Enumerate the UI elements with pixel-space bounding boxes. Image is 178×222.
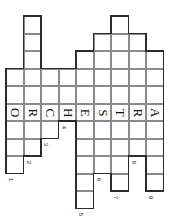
answer-letter: H — [59, 104, 77, 122]
grid-cell[interactable] — [6, 86, 24, 104]
grid-cell[interactable] — [24, 16, 42, 34]
grid-cell[interactable] — [129, 34, 147, 52]
grid-cell[interactable] — [6, 156, 24, 174]
clue-number: 4 — [60, 123, 69, 132]
grid-outline-right — [128, 15, 130, 34]
grid-cell[interactable] — [76, 86, 94, 104]
grid-outline-bottom — [128, 155, 147, 157]
grid-outline-left — [75, 155, 77, 174]
grid-outline-top — [58, 68, 77, 70]
grid-cell[interactable] — [146, 156, 164, 174]
grid-outline-right — [163, 50, 165, 69]
grid-outline-left — [5, 120, 7, 139]
grid-cell[interactable] — [6, 121, 24, 139]
grid-cell[interactable] — [59, 69, 77, 87]
grid-cell[interactable] — [111, 156, 129, 174]
grid-outline-top — [145, 50, 164, 52]
grid-cell[interactable] — [111, 34, 129, 52]
grid-cell[interactable] — [24, 121, 42, 139]
grid-cell[interactable] — [129, 69, 147, 87]
clue-number: 3 — [42, 140, 51, 149]
grid-outline-right — [163, 120, 165, 139]
grid-cell[interactable] — [111, 86, 129, 104]
clue-number: 1 — [7, 175, 16, 184]
grid-cell[interactable] — [76, 121, 94, 139]
grid-cell[interactable] — [146, 86, 164, 104]
grid-cell[interactable] — [111, 51, 129, 69]
grid-outline-left — [145, 155, 147, 174]
grid-cell[interactable] — [146, 174, 164, 192]
grid-outline-bottom — [23, 155, 42, 157]
clue-number: 5 — [77, 210, 86, 219]
grid-cell[interactable] — [94, 139, 112, 157]
grid-cell[interactable] — [24, 86, 42, 104]
grid-cell[interactable] — [129, 86, 147, 104]
grid-outline-left — [5, 138, 7, 157]
grid-cell[interactable] — [129, 51, 147, 69]
grid-outline-right — [163, 85, 165, 104]
grid-cell[interactable] — [146, 121, 164, 139]
crossword-puzzle: ORCHESTRA123456789 — [0, 0, 178, 222]
grid-cell[interactable] — [129, 139, 147, 157]
grid-cell[interactable] — [6, 139, 24, 157]
grid-cell[interactable] — [6, 69, 24, 87]
grid-cell[interactable] — [94, 34, 112, 52]
grid-cell[interactable] — [111, 16, 129, 34]
grid-cell[interactable] — [24, 139, 42, 157]
grid-cell[interactable] — [94, 156, 112, 174]
answer-letter: A — [146, 104, 164, 122]
grid-outline-left — [5, 68, 7, 87]
grid-cell[interactable] — [76, 139, 94, 157]
grid-cell[interactable] — [94, 121, 112, 139]
grid-outline-left — [75, 173, 77, 192]
grid-cell[interactable] — [76, 174, 94, 192]
answer-letter: C — [41, 104, 59, 122]
grid-cell[interactable] — [41, 69, 59, 87]
grid-outline-right — [163, 173, 165, 192]
grid-cell[interactable] — [59, 86, 77, 104]
grid-outline-top — [128, 33, 147, 35]
grid-outline-top — [5, 68, 24, 70]
grid-cell[interactable] — [146, 69, 164, 87]
grid-cell[interactable] — [111, 139, 129, 157]
grid-outline-left — [93, 33, 95, 52]
grid-cell[interactable] — [24, 51, 42, 69]
grid-outline-top — [75, 50, 94, 52]
answer-letter: R — [129, 104, 147, 122]
grid-cell[interactable] — [94, 69, 112, 87]
grid-cell[interactable] — [76, 69, 94, 87]
grid-cell[interactable] — [111, 174, 129, 192]
grid-outline-left — [75, 190, 77, 209]
grid-outline-right — [40, 50, 42, 69]
grid-outline-left — [110, 173, 112, 192]
grid-cell[interactable] — [129, 121, 147, 139]
grid-outline-right — [145, 33, 147, 52]
clue-number: 9 — [147, 193, 156, 202]
grid-outline-top — [40, 68, 59, 70]
grid-cell[interactable] — [24, 34, 42, 52]
clue-number: 7 — [112, 193, 121, 202]
grid-outline-right — [40, 33, 42, 52]
grid-cell[interactable] — [146, 51, 164, 69]
grid-cell[interactable] — [94, 51, 112, 69]
clue-number: 6 — [95, 175, 104, 184]
grid-cell[interactable] — [76, 156, 94, 174]
grid-cell[interactable] — [41, 86, 59, 104]
clue-number: 8 — [130, 158, 139, 167]
grid-outline-left — [75, 50, 77, 69]
grid-cell[interactable] — [76, 191, 94, 209]
answer-letter: O — [6, 104, 24, 122]
grid-cell[interactable] — [111, 121, 129, 139]
grid-cell[interactable] — [111, 69, 129, 87]
clue-number: 2 — [25, 158, 34, 167]
grid-cell[interactable] — [76, 51, 94, 69]
grid-cell[interactable] — [41, 121, 59, 139]
grid-outline-left — [110, 15, 112, 34]
grid-cell[interactable] — [94, 86, 112, 104]
grid-outline-right — [40, 15, 42, 34]
grid-outline-left — [23, 50, 25, 69]
grid-cell[interactable] — [146, 139, 164, 157]
answer-letter: E — [76, 104, 94, 122]
grid-cell[interactable] — [24, 69, 42, 87]
grid-outline-top — [110, 15, 129, 17]
